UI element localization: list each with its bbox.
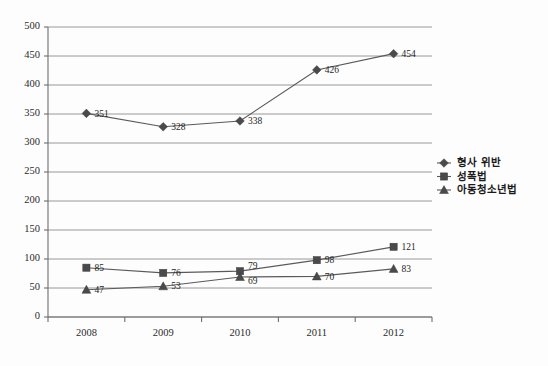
chart-screenshot: 050100150200250300350400450500 200820092… (0, 0, 548, 366)
data-point-marker (313, 257, 320, 264)
data-point-marker (82, 109, 91, 118)
data-point-marker (160, 269, 167, 276)
y-tick-label: 300 (24, 136, 40, 147)
data-point-label: 121 (402, 242, 417, 252)
data-point-marker (236, 117, 245, 126)
chart-legend: 형사 위반성폭법아동청소년법 (437, 156, 517, 195)
data-point-label: 454 (402, 49, 417, 59)
data-point-label: 69 (248, 276, 258, 286)
data-point-marker (389, 49, 398, 58)
x-axis: 20082009201020112012 (48, 317, 432, 338)
y-tick-label: 450 (24, 49, 40, 60)
data-point-label: 47 (94, 285, 104, 295)
x-tick-label: 2009 (153, 327, 174, 338)
legend-marker (440, 173, 447, 180)
data-point-label: 98 (325, 255, 335, 265)
data-point-label: 85 (94, 263, 104, 273)
data-point-marker (389, 264, 398, 272)
line-chart: 050100150200250300350400450500 200820092… (0, 0, 548, 366)
data-point-label: 328 (171, 122, 186, 132)
data-point-label: 76 (171, 268, 181, 278)
y-tick-label: 500 (24, 20, 40, 31)
y-tick-label: 150 (24, 223, 40, 234)
data-point-label: 70 (325, 272, 335, 282)
legend-label: 아동청소년법 (457, 183, 517, 195)
data-point-label: 351 (94, 109, 109, 119)
data-point-marker (159, 122, 168, 131)
x-tick-label: 2010 (230, 327, 251, 338)
y-tick-label: 100 (24, 252, 40, 263)
x-tick-label: 2008 (76, 327, 97, 338)
y-axis: 050100150200250300350400450500 (24, 20, 48, 321)
data-point-label: 426 (325, 65, 340, 75)
y-tick-label: 400 (24, 78, 40, 89)
data-point-marker (390, 243, 397, 250)
y-tick-label: 350 (24, 107, 40, 118)
legend-label: 형사 위반 (457, 156, 501, 168)
data-point-label: 338 (248, 116, 263, 126)
legend-marker (440, 159, 449, 168)
y-tick-label: 200 (24, 194, 40, 205)
x-tick-label: 2012 (383, 327, 404, 338)
y-tick-label: 0 (35, 310, 40, 321)
data-point-label: 83 (402, 264, 412, 274)
data-series (82, 49, 398, 293)
x-tick-label: 2011 (306, 327, 327, 338)
series-line-1 (86, 54, 393, 127)
legend-label: 성폭법 (457, 170, 487, 182)
y-tick-label: 50 (30, 281, 41, 292)
y-tick-label: 250 (24, 165, 40, 176)
data-point-marker (313, 66, 322, 75)
data-point-label: 53 (171, 281, 181, 291)
data-point-marker (83, 264, 90, 271)
data-point-label: 79 (248, 261, 258, 271)
